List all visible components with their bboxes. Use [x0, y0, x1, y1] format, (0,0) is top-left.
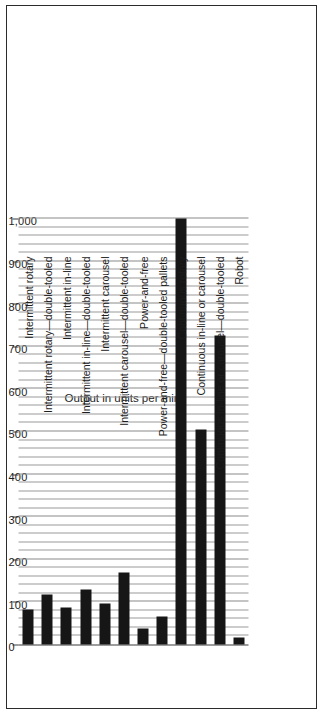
bar	[99, 603, 110, 644]
category-label: Continuous in-line or carousel—double-to…	[213, 256, 225, 469]
bar	[41, 594, 52, 644]
bar	[118, 572, 129, 644]
gridline	[18, 234, 248, 235]
bar	[80, 589, 91, 644]
figure-frame: Output in units per min 0100200300400500…	[6, 5, 317, 709]
bar	[60, 607, 71, 644]
bar	[137, 628, 148, 644]
category-label: Power-and-free	[137, 256, 149, 328]
bar	[233, 637, 244, 644]
category-label: Intermittent rotary—double-tooled	[41, 256, 53, 412]
category-label: Robot	[232, 256, 244, 284]
gridline	[18, 251, 248, 252]
category-label: Continuous in-line or carousel	[194, 256, 206, 395]
category-label: Intermittent in-line	[60, 256, 72, 339]
category-label: Intermittent rotary	[22, 256, 34, 338]
category-label: Power-and-free—double-tooled pallets	[156, 256, 168, 436]
bar	[156, 616, 167, 644]
category-label: Intermittent in-line—double-tooled	[79, 256, 91, 414]
chart-canvas: Output in units per min 0100200300400500…	[8, 7, 315, 707]
gridline	[18, 226, 248, 227]
gridline	[18, 243, 248, 244]
category-label: Continuous rotary	[175, 256, 187, 339]
category-label: Intermittent carousel—double-tooled	[117, 256, 129, 425]
bar	[195, 429, 206, 644]
category-label: Intermittent carousel	[98, 256, 110, 351]
gridline	[18, 217, 248, 218]
bar	[22, 609, 33, 644]
axis-tick-label: 0	[8, 641, 14, 653]
